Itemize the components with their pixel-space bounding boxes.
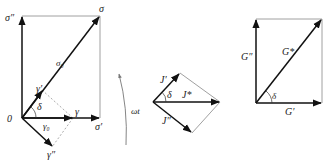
delta-angle-arc [31, 107, 36, 118]
rotation-indicator: ωt [119, 74, 140, 145]
g-star-label: G* [282, 46, 294, 57]
delta-label: δ [37, 101, 42, 112]
sigma0-label: σ₀ [56, 58, 64, 68]
stress-strain-phasor: σ″ σ σ₀ γ′ δ γ 0 γ₀ σ′ γ″ [5, 3, 105, 160]
modulus-phasor: G″ G* δ G′ [241, 19, 322, 117]
dashed-projection [42, 90, 73, 118]
j-prime-label: J′ [160, 74, 167, 85]
gamma0-label: γ₀ [43, 121, 50, 131]
guide-line [192, 102, 220, 133]
sigma-prime-label: σ′ [95, 121, 103, 132]
compliance-phasor: J′ δ J* J″ [153, 73, 220, 133]
sigma-double-prime-label: σ″ [5, 12, 15, 23]
gamma-label: γ [75, 106, 80, 117]
delta-label: δ [272, 91, 277, 101]
j-double-prime-arrow [153, 102, 191, 132]
rotation-arrow-icon [119, 74, 126, 145]
delta-angle-arc [162, 92, 166, 102]
j-double-prime-label: J″ [162, 115, 171, 126]
origin-label: 0 [7, 113, 12, 124]
g-double-prime-label: G″ [241, 51, 253, 62]
j-star-label: J* [182, 89, 191, 100]
gamma-double-prime-label: γ″ [47, 149, 56, 160]
sigma-label: σ [99, 3, 105, 14]
dashed-projection [52, 118, 73, 147]
g-star-arrow [256, 20, 321, 103]
phasor-diagram: σ″ σ σ₀ γ′ δ γ 0 γ₀ σ′ γ″ ωt J′ δ J* J″ … [0, 0, 331, 162]
delta-label: δ [167, 89, 172, 100]
gamma-prime-label: γ′ [36, 83, 43, 94]
g-prime-label: G′ [285, 106, 295, 117]
omega-t-label: ωt [131, 106, 140, 116]
